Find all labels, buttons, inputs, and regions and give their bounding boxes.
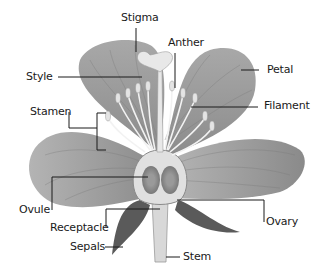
label-stamen: Stamen xyxy=(30,106,71,118)
flower-illustration xyxy=(0,0,319,278)
label-petal: Petal xyxy=(267,64,293,76)
label-anther: Anther xyxy=(168,37,204,49)
label-style: Style xyxy=(26,71,53,83)
label-filament: Filament xyxy=(264,100,310,112)
label-stigma: Stigma xyxy=(121,12,159,24)
label-ovule: Ovule xyxy=(19,204,50,216)
petal-right-lower xyxy=(170,139,305,199)
label-stem: Stem xyxy=(183,251,211,263)
sepals xyxy=(112,200,240,255)
flower-diagram: Stigma Anther Style Petal Stamen Filamen… xyxy=(0,0,319,278)
label-receptacle: Receptacle xyxy=(50,222,109,234)
label-ovary: Ovary xyxy=(266,216,298,228)
petal-upper-right xyxy=(165,48,256,155)
label-sepals: Sepals xyxy=(70,241,105,253)
